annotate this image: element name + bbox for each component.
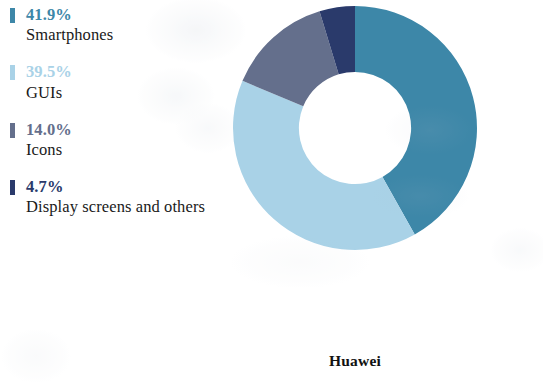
chart-legend: 41.9% Smartphones 39.5% GUIs 14.0% Icons… — [8, 5, 208, 217]
donut-chart — [232, 5, 478, 251]
legend-label: Smartphones — [26, 25, 208, 45]
donut-slice[interactable] — [233, 81, 415, 250]
legend-color-swatch-icon — [10, 123, 15, 138]
legend-percent: 4.7% — [26, 177, 208, 196]
legend-percent: 39.5% — [26, 62, 208, 81]
legend-item[interactable]: 39.5% GUIs — [8, 62, 208, 102]
donut-slice-group — [233, 6, 477, 250]
legend-color-swatch-icon — [10, 8, 15, 23]
legend-color-swatch-icon — [10, 180, 15, 195]
donut-chart-svg — [232, 5, 478, 251]
legend-percent: 41.9% — [26, 5, 208, 24]
legend-color-swatch-icon — [10, 65, 15, 80]
legend-label: GUIs — [26, 83, 208, 103]
legend-item[interactable]: 14.0% Icons — [8, 120, 208, 160]
legend-item[interactable]: 4.7% Display screens and others — [8, 177, 208, 217]
legend-percent: 14.0% — [26, 120, 208, 139]
legend-label: Display screens and others — [26, 197, 208, 217]
chart-caption: Huawei — [232, 352, 478, 370]
legend-item[interactable]: 41.9% Smartphones — [8, 5, 208, 45]
legend-label: Icons — [26, 140, 208, 160]
